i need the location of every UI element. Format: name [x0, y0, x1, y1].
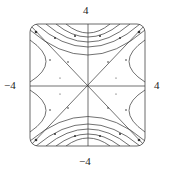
phase-portrait	[0, 0, 172, 175]
